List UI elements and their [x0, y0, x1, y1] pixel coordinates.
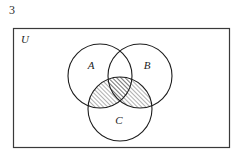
figure-canvas: 3 U — [0, 0, 241, 163]
venn-diagram: U A B C — [0, 0, 241, 163]
circle-a-label: A — [87, 59, 95, 71]
universe-label: U — [21, 33, 30, 45]
circle-b-label: B — [144, 59, 151, 71]
circle-c-label: C — [115, 114, 123, 126]
